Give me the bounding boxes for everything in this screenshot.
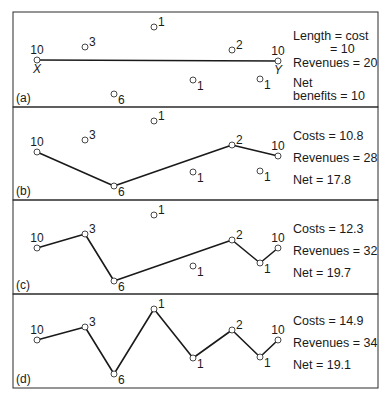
node-n6 bbox=[111, 371, 117, 377]
panel-tag: (a) bbox=[16, 91, 31, 105]
node-n2 bbox=[229, 142, 235, 148]
node-revenue-label: 1 bbox=[264, 78, 271, 92]
node-revenue-label: 2 bbox=[236, 318, 243, 332]
node-n3 bbox=[82, 137, 88, 143]
node-revenue-label: 2 bbox=[236, 38, 243, 52]
panel-tag: (d) bbox=[16, 372, 31, 386]
node-n2 bbox=[229, 327, 235, 333]
node-revenue-label: 2 bbox=[236, 228, 243, 242]
node-revenue-label: 1 bbox=[197, 357, 204, 371]
node-n1a bbox=[151, 212, 157, 218]
node-n1c bbox=[257, 354, 263, 360]
node-revenue-label: 6 bbox=[118, 280, 125, 294]
node-revenue-label: 10 bbox=[271, 44, 285, 58]
node-revenue-label: 6 bbox=[118, 93, 125, 107]
node-revenue-label: 1 bbox=[264, 262, 271, 276]
stat-text: benefits = 10 bbox=[293, 89, 365, 103]
node-revenue-label: 1 bbox=[197, 171, 204, 185]
node-revenue-label: 3 bbox=[89, 222, 96, 236]
node-revenue-label: 10 bbox=[30, 43, 44, 57]
route-path bbox=[37, 145, 278, 186]
node-n3 bbox=[82, 324, 88, 330]
node-n3 bbox=[82, 44, 88, 50]
node-revenue-label: 10 bbox=[271, 139, 285, 153]
node-n2 bbox=[229, 47, 235, 53]
node-n1a bbox=[151, 306, 157, 312]
stat-text: Net = 17.8 bbox=[293, 173, 351, 187]
node-revenue-label: 10 bbox=[271, 323, 285, 337]
stat-text: Net bbox=[293, 76, 313, 90]
node-revenue-label: 1 bbox=[158, 203, 165, 217]
stat-text: Costs = 10.8 bbox=[293, 129, 364, 143]
node-revenue-label: 3 bbox=[89, 35, 96, 49]
node-n6 bbox=[111, 183, 117, 189]
node-Y bbox=[275, 153, 281, 159]
stat-text: Revenues = 32 bbox=[293, 244, 377, 258]
endpoint-label-Y: Y bbox=[274, 63, 283, 77]
route-diagram: 10X36112110Y(a)Length = cost= 10Revenues… bbox=[0, 0, 390, 400]
node-n1b bbox=[190, 263, 196, 269]
node-revenue-label: 10 bbox=[30, 323, 44, 337]
panel-tag: (c) bbox=[16, 278, 30, 292]
node-Y bbox=[275, 337, 281, 343]
stat-text: Costs = 14.9 bbox=[293, 314, 364, 328]
panel-a: 10X36112110Y(a)Length = cost= 10Revenues… bbox=[13, 12, 378, 107]
node-n1b bbox=[190, 355, 196, 361]
node-revenue-label: 1 bbox=[264, 170, 271, 184]
stat-text: = 10 bbox=[330, 42, 355, 56]
node-X bbox=[34, 149, 40, 155]
route-path bbox=[37, 60, 278, 61]
stat-text: Revenues = 28 bbox=[293, 151, 377, 165]
node-n1c bbox=[257, 260, 263, 266]
node-n1b bbox=[190, 77, 196, 83]
panel-d: 1036112110(d)Costs = 14.9Revenues = 34Ne… bbox=[13, 294, 378, 388]
node-revenue-label: 6 bbox=[118, 185, 125, 199]
node-revenue-label: 1 bbox=[264, 356, 271, 370]
node-revenue-label: 2 bbox=[236, 133, 243, 147]
node-n6 bbox=[111, 91, 117, 97]
node-revenue-label: 1 bbox=[158, 109, 165, 123]
node-revenue-label: 3 bbox=[89, 128, 96, 142]
node-revenue-label: 10 bbox=[271, 231, 285, 245]
node-n1a bbox=[151, 24, 157, 30]
node-revenue-label: 1 bbox=[197, 265, 204, 279]
stat-text: Revenues = 34 bbox=[293, 336, 377, 350]
panel-tag: (b) bbox=[16, 184, 31, 198]
node-X bbox=[34, 337, 40, 343]
stat-text: Net = 19.7 bbox=[293, 266, 351, 280]
node-revenue-label: 1 bbox=[158, 297, 165, 311]
node-Y bbox=[275, 245, 281, 251]
node-revenue-label: 6 bbox=[118, 373, 125, 387]
stat-text: Net = 19.1 bbox=[293, 358, 351, 372]
node-n1c bbox=[257, 76, 263, 82]
node-n6 bbox=[111, 278, 117, 284]
node-n1a bbox=[151, 118, 157, 124]
stat-text: Revenues = 20 bbox=[293, 56, 377, 70]
node-n3 bbox=[82, 231, 88, 237]
node-n1c bbox=[257, 168, 263, 174]
panel-b: 1036112110(b)Costs = 10.8Revenues = 28Ne… bbox=[13, 107, 378, 200]
node-n2 bbox=[229, 237, 235, 243]
stat-text: Costs = 12.3 bbox=[293, 222, 364, 236]
panel-c: 1036112110(c)Costs = 12.3Revenues = 32Ne… bbox=[13, 200, 378, 294]
node-revenue-label: 1 bbox=[158, 15, 165, 29]
node-revenue-label: 10 bbox=[30, 231, 44, 245]
node-X bbox=[34, 245, 40, 251]
node-revenue-label: 1 bbox=[197, 79, 204, 93]
stat-text: Length = cost bbox=[293, 29, 369, 43]
node-n1b bbox=[190, 169, 196, 175]
node-revenue-label: 3 bbox=[89, 315, 96, 329]
node-revenue-label: 10 bbox=[30, 135, 44, 149]
endpoint-label-X: X bbox=[32, 62, 42, 76]
